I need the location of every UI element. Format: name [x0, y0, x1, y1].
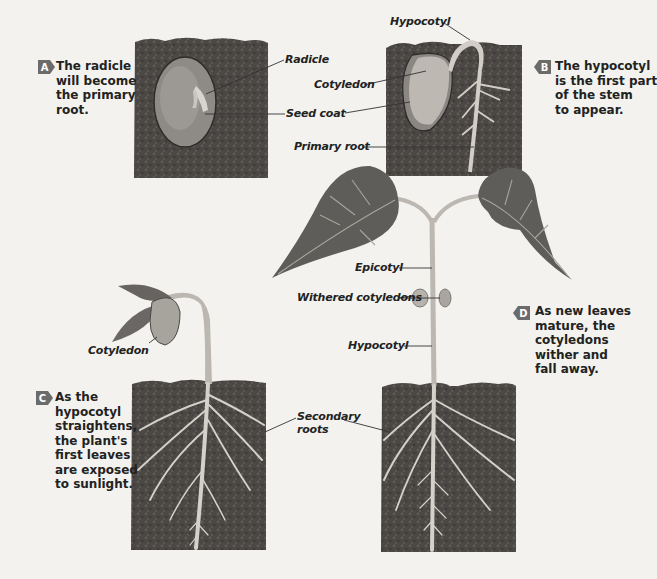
caption-line: of the stem — [555, 88, 657, 103]
label-seed-coat: Seed coat — [286, 107, 346, 120]
svg-text:B: B — [541, 62, 549, 73]
caption-line: As new leaves — [535, 304, 631, 319]
caption-line: the primary — [56, 88, 136, 103]
caption-line: to appear. — [555, 103, 657, 118]
stage-d-plant — [272, 166, 572, 552]
caption-line: The hypocotyl — [555, 59, 657, 74]
caption-line: root. — [56, 103, 136, 118]
caption-line: cotyledons — [535, 333, 631, 348]
caption-a: The radicle will become the primary root… — [56, 59, 136, 117]
label-secondary-roots-line1: Secondary — [297, 410, 360, 423]
caption-line: is the first part — [555, 74, 657, 89]
svg-text:D: D — [519, 308, 527, 319]
badge-a-icon: A — [38, 60, 55, 74]
svg-text:A: A — [41, 62, 49, 73]
stage-a-soil — [134, 38, 268, 178]
caption-line: will become — [56, 74, 136, 89]
label-secondary-roots-line2: roots — [297, 423, 328, 436]
caption-line: are exposed — [55, 463, 138, 478]
caption-line: mature, the — [535, 319, 631, 334]
caption-line: As the — [55, 390, 138, 405]
badge-c-icon: C — [36, 391, 53, 405]
caption-line: hypocotyl — [55, 405, 138, 420]
caption-line: the plant's — [55, 434, 138, 449]
label-epicotyl: Epicotyl — [355, 261, 403, 274]
caption-line: to sunlight. — [55, 477, 138, 492]
caption-b: The hypocotyl is the first part of the s… — [555, 59, 657, 117]
badge-d-icon: D — [513, 306, 530, 320]
caption-line: The radicle — [56, 59, 136, 74]
label-hypocotyl-d: Hypocotyl — [348, 339, 408, 352]
caption-line: fall away. — [535, 362, 631, 377]
label-withered-cotyledons: Withered cotyledons — [297, 291, 422, 304]
label-primary-root: Primary root — [294, 140, 370, 153]
caption-c: As the hypocotyl straightens, the plant'… — [55, 390, 138, 492]
badge-b-icon: B — [534, 60, 551, 74]
stage-b-soil — [386, 40, 522, 176]
label-cotyledon-c: Cotyledon — [88, 344, 149, 357]
label-cotyledon-b: Cotyledon — [314, 78, 375, 91]
caption-line: first leaves — [55, 448, 138, 463]
svg-text:C: C — [39, 393, 46, 404]
label-radicle: Radicle — [285, 53, 329, 66]
caption-line: straightens, — [55, 419, 138, 434]
label-hypocotyl-b: Hypocotyl — [390, 15, 450, 28]
caption-line: wither and — [535, 348, 631, 363]
caption-d: As new leaves mature, the cotyledons wit… — [535, 304, 631, 377]
